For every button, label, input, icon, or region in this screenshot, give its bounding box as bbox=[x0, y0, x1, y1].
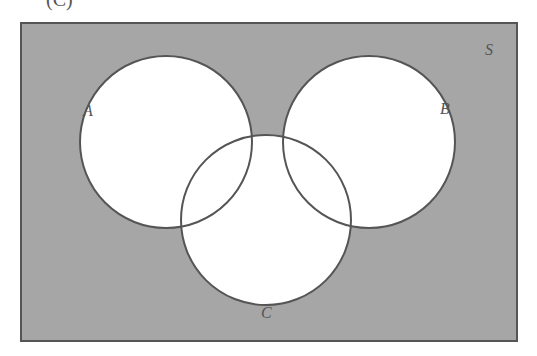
set-c-label: C bbox=[261, 304, 272, 321]
set-b-label: B bbox=[440, 100, 450, 117]
set-a-label: A bbox=[82, 102, 93, 119]
universe-label: S bbox=[485, 41, 493, 58]
part-label: (C) bbox=[46, 0, 73, 11]
venn-diagram: (C) S A B C bbox=[0, 0, 537, 356]
venn-svg: S A B C bbox=[0, 0, 537, 356]
